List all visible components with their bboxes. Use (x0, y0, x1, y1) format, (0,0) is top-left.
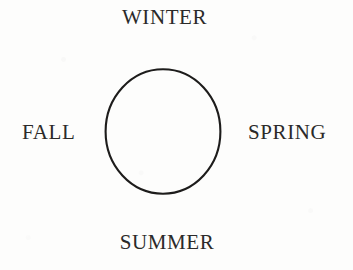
season-label-winter: WINTER (0, 7, 353, 28)
season-label-fall: FALL (22, 122, 75, 143)
season-label-spring: SPRING (248, 122, 326, 143)
season-label-summer: SUMMER (0, 232, 353, 253)
seasonal-cycle-diagram: WINTER FALL SPRING SUMMER (0, 0, 353, 270)
cycle-circle-icon (104, 68, 222, 195)
